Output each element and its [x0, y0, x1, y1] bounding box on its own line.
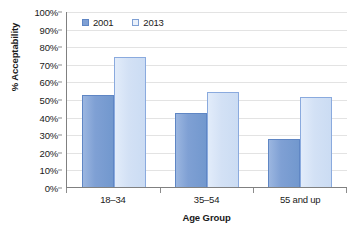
y-axis-tick-label: 80% [40, 42, 58, 53]
y-axis-tick-label: 60% [40, 77, 58, 88]
bar-group [67, 12, 160, 187]
bars-layer [67, 12, 347, 187]
y-axis-tick-label: 0% [45, 183, 58, 194]
legend-swatch-icon [82, 19, 89, 26]
legend-label: 2001 [93, 17, 113, 28]
plot-area [66, 12, 347, 188]
y-axis-tick-label: 10% [40, 165, 58, 176]
bar-2013-35–54[interactable] [207, 92, 239, 187]
x-axis-tick-mark [253, 188, 254, 193]
bar-group [160, 12, 253, 187]
y-axis-tick-label: 90% [40, 24, 58, 35]
y-axis-tick-mark [58, 29, 62, 30]
y-axis-tick-mark [58, 170, 62, 171]
legend-label: 2013 [143, 17, 163, 28]
y-axis-tick-label: 70% [40, 59, 58, 70]
y-axis-tick-mark [58, 12, 62, 13]
y-axis-tick-labels: 0%10%20%30%40%50%60%70%80%90%100% [20, 12, 62, 188]
y-axis-tick-mark [58, 82, 62, 83]
legend-item-2013[interactable]: 2013 [132, 17, 163, 28]
x-axis-tick-label: 55 and up [253, 194, 347, 210]
y-axis-tick-label: 20% [40, 147, 58, 158]
bar-2001-55 and up[interactable] [268, 139, 300, 187]
x-axis-tick-mark [66, 188, 67, 193]
x-axis-tick-marks [66, 188, 347, 193]
chart-legend: 20012013 [82, 17, 164, 28]
y-axis-tick-mark [58, 100, 62, 101]
y-axis-tick-label: 100% [35, 7, 59, 18]
y-axis-tick-mark [58, 152, 62, 153]
bar-2001-18–34[interactable] [82, 95, 114, 187]
x-axis-tick-mark [160, 188, 161, 193]
x-axis-title: Age Group [66, 212, 347, 223]
x-axis-tick-labels: 18–3435–5455 and up [66, 194, 347, 210]
bar-chart: % Acceptability 0%10%20%30%40%50%60%70%8… [0, 0, 360, 234]
y-axis-tick-mark [58, 135, 62, 136]
bar-2001-35–54[interactable] [175, 113, 207, 187]
bar-group [254, 12, 347, 187]
legend-swatch-icon [132, 19, 139, 26]
y-axis-tick-label: 50% [40, 95, 58, 106]
bar-2013-55 and up[interactable] [300, 97, 332, 187]
x-axis-tick-mark [346, 188, 347, 193]
legend-item-2001[interactable]: 2001 [82, 17, 113, 28]
x-axis-tick-label: 18–34 [66, 194, 160, 210]
x-axis-tick-label: 35–54 [160, 194, 254, 210]
bar-2013-18–34[interactable] [114, 57, 146, 187]
y-axis-tick-label: 40% [40, 112, 58, 123]
y-axis-tick-label: 30% [40, 130, 58, 141]
y-axis-tick-mark [58, 64, 62, 65]
y-axis-tick-mark [58, 47, 62, 48]
y-axis-tick-mark [58, 188, 62, 189]
y-axis-tick-mark [58, 117, 62, 118]
